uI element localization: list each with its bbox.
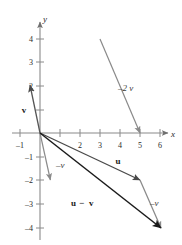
vector-v [30, 85, 40, 133]
x-tick-label-5: 5 [138, 141, 142, 150]
y-axis-label: y [42, 14, 47, 24]
label-u-minus-v-u: u [71, 198, 76, 208]
y-tick-label--2: –2 [24, 176, 33, 185]
y-tick-label--3: –3 [24, 200, 33, 209]
label-vector-v: v [22, 105, 27, 115]
label-vector-minus-v-translated: –v [149, 198, 159, 208]
x-tick-label-4: 4 [118, 141, 122, 150]
label-vector-u: u [115, 156, 120, 166]
label-u-minus-v-minus: − [79, 198, 84, 208]
x-tick-label-2: 2 [78, 141, 82, 150]
label-vector-minus-2v: –2 v [117, 83, 133, 93]
vector-plot-canvas: –1 2 3 4 5 6 4 3 2 –1 –2 –3 –4 x y v –2 … [0, 0, 182, 245]
x-tick-label-3: 3 [98, 141, 102, 150]
label-vector-minus-2v-text: –2 v [117, 83, 133, 93]
label-vector-minus-v-origin: –v [55, 160, 65, 170]
vector-diagram-figure: –1 2 3 4 5 6 4 3 2 –1 –2 –3 –4 x y v –2 … [0, 0, 182, 245]
x-tick-label--1: –1 [15, 141, 24, 150]
y-tick-label--4: –4 [24, 224, 33, 233]
x-tick-label-6: 6 [158, 141, 162, 150]
x-axis-label: x [170, 129, 175, 139]
y-tick-label--1: –1 [24, 153, 33, 162]
label-u-minus-v-v: v [89, 198, 94, 208]
y-tick-label-3: 3 [29, 58, 33, 67]
label-vector-u-minus-v: u − v [71, 198, 94, 208]
y-tick-label-4: 4 [29, 35, 33, 44]
